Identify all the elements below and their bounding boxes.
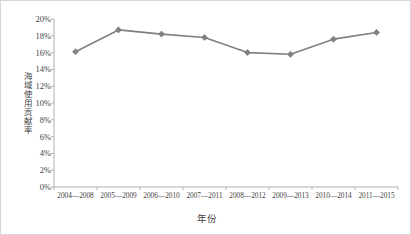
x-axis-tick-label: 2009—2013 [269,191,312,205]
data-point-marker [287,51,293,57]
x-axis-tick-label: 2004—2008 [54,191,97,205]
x-axis-tick-label: 2010—2014 [312,191,355,205]
x-axis-title: 年份 [1,211,411,225]
x-axis-tick-label: 2007—2011 [183,191,226,205]
data-point-marker [330,36,336,42]
x-axis-tick-label: 2011—2015 [355,191,398,205]
data-point-marker [373,29,379,35]
x-axis-tick-label: 2005—2009 [97,191,140,205]
data-point-marker [244,50,250,56]
chart-figure: 海域使用贡献率 0%2%4%6%8%10%12%14%16%18%20% 200… [0,0,411,235]
x-axis-tick-labels: 2004—20082005—20092006—20102007—20112008… [54,191,398,205]
data-point-marker [115,27,121,33]
data-point-marker [72,49,78,55]
x-axis-tick-label: 2008—2012 [226,191,269,205]
x-axis-tick-label: 2006—2010 [140,191,183,205]
data-point-marker [201,34,207,40]
data-point-marker [158,31,164,37]
data-line-series-1 [76,30,377,54]
